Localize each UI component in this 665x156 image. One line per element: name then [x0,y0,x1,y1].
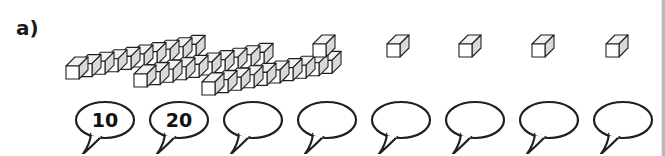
unit-cube-4 [528,30,558,64]
answer-bubble-2[interactable]: 20 [148,100,220,152]
answer-bubble-6[interactable] [444,100,516,152]
answer-bubble-4[interactable] [296,100,368,152]
answer-bubble-5[interactable] [370,100,442,152]
worksheet-exercise-a: a) 10 20 [0,0,665,156]
task-label: a) [16,16,39,40]
unit-cube-2 [383,30,413,64]
answer-bubble-8[interactable] [592,100,664,152]
unit-cube-5 [602,30,632,64]
answer-bubble-7[interactable] [518,100,590,152]
unit-cube-3 [455,30,485,64]
ten-rod-3 [196,36,375,106]
answer-bubble-1[interactable]: 10 [74,100,146,152]
unit-cube-1 [309,30,339,64]
answer-bubble-3[interactable] [222,100,294,152]
